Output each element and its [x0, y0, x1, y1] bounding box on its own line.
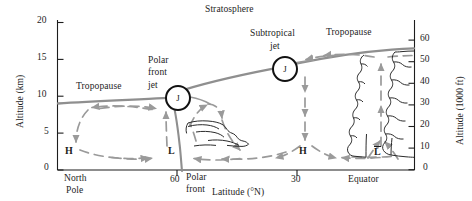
polar-cell-circulation [76, 106, 167, 159]
polar-front-cloud-band [186, 121, 249, 147]
right-tick-30: 30 [420, 98, 430, 108]
subtropical-jet-label-line1: Subtropical [250, 29, 295, 39]
axis-frame [58, 20, 415, 170]
subtropical-jet-marker[interactable]: J [272, 56, 298, 82]
pressure-label-equatorial-low: L [374, 146, 381, 158]
right-tick-60: 60 [420, 34, 430, 44]
right-tick-20: 20 [420, 120, 430, 130]
tropopause-label-left: Tropopause [76, 82, 122, 92]
left-axis-ticks [58, 23, 64, 171]
diagram-canvas [0, 0, 472, 201]
right-axis-ticks [409, 40, 415, 170]
polar-front-jet-label-line1: Polar [148, 56, 169, 66]
polar-front-jet-marker[interactable]: J [165, 85, 191, 111]
equatorial-cloud-left [348, 55, 368, 157]
jet-marker-letter: J [176, 93, 180, 103]
left-tick-20: 20 [37, 16, 47, 26]
pressure-label-polar-high: H [65, 146, 73, 157]
left-tick-10: 10 [37, 90, 47, 100]
right-tick-10: 10 [420, 142, 430, 152]
atmospheric-circulation-figure: Stratosphere 20 15 10 5 0 Altitude (km) … [0, 0, 472, 201]
jet-marker-letter: J [283, 64, 287, 74]
pressure-label-equatorial-low-text: L [374, 146, 381, 157]
pressure-label-subpolar-low: L [168, 146, 175, 157]
left-tick-15: 15 [37, 53, 47, 63]
subtropical-jet-label-line2: jet [270, 42, 280, 52]
left-axis-title: Altitude (km) [16, 75, 26, 128]
right-axis-title: Altitude (1000 ft) [456, 76, 466, 145]
bottom-label-north: North [64, 174, 87, 184]
bottom-tick-60: 60 [170, 175, 180, 185]
equatorial-cloud-right [383, 51, 414, 157]
polar-front-label-line2: front [186, 185, 205, 195]
right-tick-50: 50 [420, 55, 430, 65]
left-tick-5: 5 [44, 127, 49, 137]
tropopause-line [58, 48, 414, 103]
pressure-label-subtropical-high: H [299, 146, 307, 157]
stratosphere-label: Stratosphere [205, 5, 254, 15]
polar-front-jet-label-line3: jet [148, 81, 158, 91]
bottom-axis-title: Latitude (°N) [212, 188, 264, 198]
polar-front-label-line1: Polar [186, 173, 207, 183]
bottom-label-equator: Equator [348, 175, 379, 185]
right-tick-0: 0 [423, 163, 428, 173]
left-tick-0: 0 [44, 163, 49, 173]
right-tick-40: 40 [420, 77, 430, 87]
ferrel-cell-circulation [190, 104, 286, 160]
bottom-label-pole: Pole [66, 186, 83, 196]
polar-front-jet-label-line2: front [148, 68, 167, 78]
bottom-tick-30: 30 [291, 175, 301, 185]
tropopause-label-right: Tropopause [326, 28, 372, 38]
